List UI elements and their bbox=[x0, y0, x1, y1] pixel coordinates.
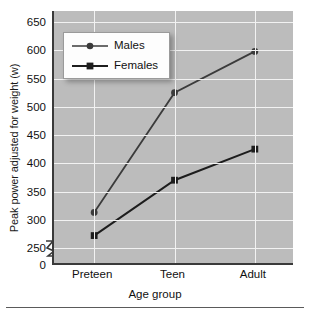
y-tick-label: 0 bbox=[40, 259, 46, 271]
gridline-horizontal bbox=[54, 192, 293, 193]
x-axis-title: Age group bbox=[0, 288, 310, 300]
y-tick-label: 500 bbox=[27, 101, 46, 113]
y-axis-tick-labels: 0250300350400450500550600650 bbox=[0, 0, 48, 315]
gridline-vertical bbox=[175, 11, 176, 263]
gridline-horizontal bbox=[54, 220, 293, 221]
y-tick-label: 300 bbox=[27, 214, 46, 226]
y-tick-label: 550 bbox=[27, 73, 46, 85]
legend-label-males: Males bbox=[114, 39, 145, 51]
gridline-horizontal bbox=[54, 135, 293, 136]
y-tick-label: 400 bbox=[27, 157, 46, 169]
y-tick-label: 350 bbox=[27, 186, 46, 198]
legend-entry-males: Males bbox=[70, 36, 168, 56]
y-tick-label: 450 bbox=[27, 129, 46, 141]
x-tick-label: Preteen bbox=[72, 268, 112, 280]
legend-label-females: Females bbox=[114, 59, 158, 71]
males-line-marker-icon bbox=[70, 36, 110, 56]
legend-entry-females: Females bbox=[70, 56, 168, 76]
chart-legend: Males Females bbox=[63, 32, 170, 79]
gridline-horizontal bbox=[54, 107, 293, 108]
y-tick-label: 650 bbox=[27, 16, 46, 28]
gridline-vertical bbox=[255, 11, 256, 263]
gridline-horizontal bbox=[54, 22, 293, 23]
x-axis-tick-labels: PreteenTeenAdult bbox=[52, 268, 293, 286]
bottom-divider bbox=[6, 307, 304, 308]
x-tick-label: Adult bbox=[240, 268, 266, 280]
females-line-marker-icon bbox=[70, 56, 110, 76]
x-tick-label: Teen bbox=[160, 268, 185, 280]
gridline-horizontal bbox=[54, 248, 293, 249]
gridline-horizontal bbox=[54, 163, 293, 164]
y-tick-label: 600 bbox=[27, 44, 46, 56]
chart-figure: Peak power adjusted for weight (w) 02503… bbox=[0, 0, 310, 315]
